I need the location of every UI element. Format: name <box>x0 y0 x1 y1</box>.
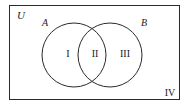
venn-diagram: U A B I II III IV <box>0 0 185 105</box>
region-ii-label: II <box>92 48 99 59</box>
region-iii-label: III <box>120 48 130 59</box>
set-a-label: A <box>41 17 49 28</box>
universe-label: U <box>17 9 26 21</box>
region-iv-label: IV <box>165 87 176 98</box>
region-i-label: I <box>66 48 69 59</box>
set-b-label: B <box>141 17 147 28</box>
set-b-circle <box>78 23 142 87</box>
